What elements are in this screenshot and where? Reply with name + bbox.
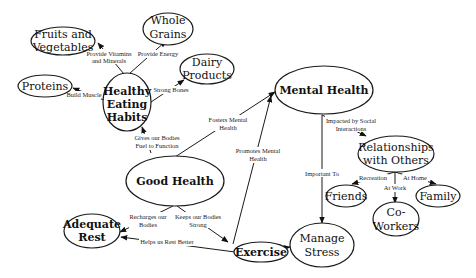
- edge-label-recreation: Recreation: [358, 174, 388, 182]
- node-fruits-and-vegetables[interactable]: Fruits and Vegetables: [31, 27, 95, 55]
- svg-text:Proteins: Proteins: [22, 80, 69, 93]
- svg-text:Whole: Whole: [150, 14, 185, 27]
- svg-text:Gives our Bodies: Gives our Bodies: [134, 134, 180, 141]
- svg-text:Important To: Important To: [305, 170, 339, 177]
- svg-text:Eating: Eating: [107, 98, 148, 111]
- svg-text:Habits: Habits: [107, 111, 148, 124]
- node-whole-grains[interactable]: Whole Grains: [143, 13, 193, 45]
- svg-text:Healthy: Healthy: [103, 85, 152, 98]
- node-exercise[interactable]: Exercise: [234, 242, 288, 262]
- edge-label-fuel: Gives our Bodies Fuel to Function: [133, 134, 181, 150]
- node-good-health[interactable]: Good Health: [126, 156, 224, 206]
- node-mental-health[interactable]: Mental Health: [275, 66, 373, 114]
- svg-text:At Home: At Home: [403, 174, 427, 181]
- edge-label-fosters: Fosters Mental Health: [206, 115, 250, 131]
- svg-text:Fuel to Function: Fuel to Function: [136, 142, 180, 149]
- edge-label-energy: Provide Energy: [137, 50, 179, 58]
- edge-label-muscle: Build Muscle: [66, 91, 101, 99]
- svg-text:Bodies: Bodies: [139, 221, 158, 228]
- svg-text:Co-: Co-: [387, 206, 406, 219]
- svg-text:Rest: Rest: [78, 231, 106, 244]
- svg-text:Strong Bones: Strong Bones: [153, 86, 189, 93]
- node-co-workers[interactable]: Co- Workers: [373, 202, 420, 236]
- svg-text:Vegetables: Vegetables: [32, 41, 94, 54]
- node-proteins[interactable]: Proteins: [18, 75, 72, 97]
- svg-text:At Work: At Work: [384, 184, 407, 191]
- svg-text:Family: Family: [419, 190, 457, 203]
- svg-text:Adequate: Adequate: [62, 218, 121, 231]
- svg-text:with Others: with Others: [363, 154, 429, 167]
- svg-text:Build Muscle: Build Muscle: [66, 91, 101, 98]
- edge-label-atwork: At Work: [382, 184, 408, 192]
- edge-label-recharges: Recharges our Bodies: [129, 212, 167, 228]
- svg-text:Workers: Workers: [373, 220, 420, 233]
- node-manage-stress[interactable]: Manage Stress: [290, 223, 354, 267]
- edge-label-restbetter: Helps us Rest Better: [139, 238, 195, 246]
- svg-text:Fosters Mental: Fosters Mental: [209, 116, 248, 123]
- svg-text:Provide Energy: Provide Energy: [138, 50, 179, 57]
- svg-text:Health: Health: [249, 155, 267, 162]
- svg-text:Interactions: Interactions: [336, 125, 367, 132]
- svg-text:Recharges our: Recharges our: [129, 213, 167, 220]
- edge-label-strong: Keeps our Bodies Strong: [174, 212, 222, 228]
- node-adequate-rest[interactable]: Adequate Rest: [62, 214, 121, 248]
- svg-text:Products: Products: [182, 69, 232, 82]
- svg-text:Helps us Rest Better: Helps us Rest Better: [140, 238, 194, 245]
- concept-map: Provide Vitamins and Minerals Provide En…: [0, 0, 476, 278]
- svg-text:and Minerals: and Minerals: [92, 57, 127, 64]
- svg-text:Mental Health: Mental Health: [279, 84, 368, 97]
- node-dairy-products[interactable]: Dairy Products: [180, 54, 234, 84]
- svg-text:Recreation: Recreation: [359, 174, 388, 181]
- edge-label-social: Impacted by Social Interactions: [325, 116, 377, 132]
- svg-text:Exercise: Exercise: [235, 246, 287, 259]
- svg-text:Friends: Friends: [325, 190, 368, 203]
- svg-text:Impacted by Social: Impacted by Social: [326, 117, 376, 124]
- svg-text:Health: Health: [219, 124, 237, 131]
- edge-label-bones: Strong Bones: [153, 86, 189, 94]
- svg-text:Fruits and: Fruits and: [34, 28, 92, 41]
- node-relationships-with-others[interactable]: Relationships with Others: [358, 136, 434, 172]
- svg-text:Grains: Grains: [150, 28, 187, 41]
- node-friends[interactable]: Friends: [325, 185, 368, 207]
- svg-text:Relationships: Relationships: [358, 141, 434, 154]
- svg-text:Stress: Stress: [304, 246, 339, 259]
- node-healthy-eating-habits[interactable]: Healthy Eating Habits: [103, 73, 152, 131]
- svg-text:Good Health: Good Health: [136, 175, 213, 188]
- svg-text:Dairy: Dairy: [192, 56, 223, 69]
- edge-label-promotes: Promotes Mental Health: [234, 147, 282, 163]
- node-family[interactable]: Family: [416, 185, 460, 207]
- svg-text:Strong: Strong: [189, 221, 207, 228]
- edge-label-athome: At Home: [402, 174, 428, 182]
- svg-text:Manage: Manage: [299, 232, 344, 245]
- svg-text:Keeps our Bodies: Keeps our Bodies: [175, 213, 222, 220]
- svg-text:Promotes Mental: Promotes Mental: [236, 147, 281, 154]
- edge-label-important: Important To: [302, 169, 342, 177]
